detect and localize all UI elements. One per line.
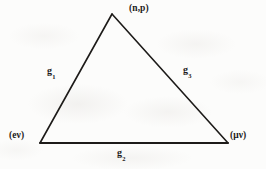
triangle-diagram	[0, 0, 266, 169]
vertex-label-munu: (μν)	[230, 131, 246, 141]
edge-label-g3-subscript: 3	[188, 72, 191, 79]
vertex-label-enu: (eν)	[9, 131, 24, 141]
edge-label-g2: g2	[117, 148, 125, 158]
edge-g1-line	[40, 14, 112, 143]
figure-canvas: (n,p) (eν) (μν) g1 g3 g2	[0, 0, 266, 169]
vertex-label-np: (n,p)	[129, 4, 149, 14]
edge-label-g2-subscript: 2	[122, 155, 125, 162]
edge-label-g1: g1	[47, 66, 55, 76]
triangle-edges	[40, 14, 228, 143]
edge-g3-line	[112, 14, 228, 143]
edge-label-g1-subscript: 1	[52, 73, 55, 80]
edge-label-g3: g3	[183, 65, 191, 75]
